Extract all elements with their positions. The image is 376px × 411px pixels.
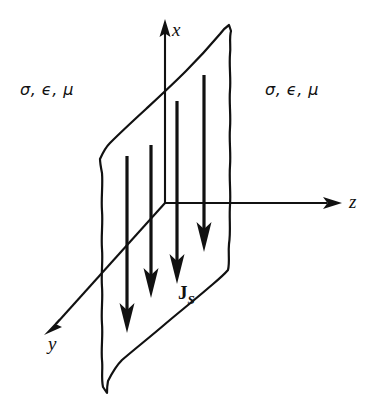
medium-parameters-left: σ, ϵ, μ bbox=[20, 82, 74, 98]
y-axis-label: y bbox=[48, 334, 56, 353]
x-axis-label: x bbox=[172, 20, 180, 39]
current-subscript: S bbox=[188, 292, 195, 307]
y-axis-line bbox=[56, 203, 165, 324]
current-symbol: J bbox=[178, 282, 188, 303]
z-axis-label: z bbox=[349, 192, 356, 211]
figure-canvas: x y z σ, ϵ, μ σ, ϵ, μ JS bbox=[0, 0, 376, 411]
surface-current-density-label: JS bbox=[178, 283, 195, 302]
medium-parameters-right: σ, ϵ, μ bbox=[265, 82, 319, 98]
